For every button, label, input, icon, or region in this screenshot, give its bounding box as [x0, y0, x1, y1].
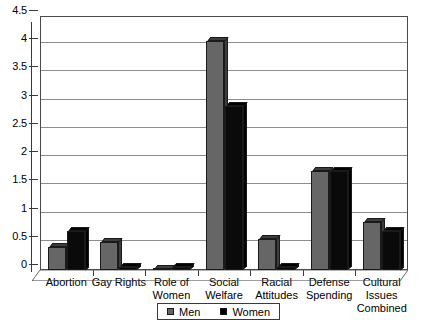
y-axis-tick-label: 4: [21, 32, 27, 44]
legend-label: Women: [232, 306, 270, 318]
bars-layer: [40, 16, 408, 270]
legend-entry-men[interactable]: Men: [167, 306, 200, 318]
bar-face: [67, 231, 85, 271]
bar-face: [311, 171, 329, 270]
bar-men-3: [206, 41, 224, 270]
bar-face: [206, 41, 224, 270]
bar-face: [48, 247, 66, 270]
bar-women-1: [119, 267, 137, 270]
bar-face: [330, 171, 348, 270]
bar-men-5: [311, 171, 329, 270]
bar-men-2: [153, 269, 171, 271]
bar-women-2: [172, 267, 190, 270]
x-axis-category-label: Cultural Issues Combined: [349, 276, 414, 315]
bar-face: [258, 239, 276, 270]
y-axis-tick-label: 2.5: [12, 117, 27, 129]
bar-face: [119, 267, 137, 270]
bar-top: [226, 102, 247, 106]
bar-top: [121, 263, 142, 267]
legend-entry-women[interactable]: Women: [220, 306, 270, 318]
y-axis-tick-mark: [29, 10, 38, 11]
bar-side: [400, 227, 404, 270]
bar-top: [259, 235, 280, 239]
bar-top: [278, 263, 299, 267]
y-axis-tick-label: 0.5: [12, 230, 27, 242]
bar-men-6: [363, 222, 381, 270]
bar-face: [172, 267, 190, 270]
bar-face: [277, 267, 295, 270]
bar-women-6: [382, 231, 400, 271]
bar-men-0: [48, 247, 66, 270]
y-axis-tick-label: 3.5: [12, 60, 27, 72]
bar-face: [225, 106, 243, 270]
bar-men-1: [100, 242, 118, 270]
bar-women-4: [277, 267, 295, 270]
bar-top: [102, 238, 123, 242]
y-axis-tick-label: 4.5: [12, 4, 27, 16]
bar-face: [100, 242, 118, 270]
bar-women-0: [67, 231, 85, 271]
y-axis-tick-label: 0: [21, 258, 27, 270]
bar-side: [85, 227, 89, 270]
bar-top: [173, 263, 194, 267]
bar-men-4: [258, 239, 276, 270]
bar-top: [207, 37, 228, 41]
bar-face: [382, 231, 400, 271]
bar-top: [384, 227, 405, 231]
bar-face: [363, 222, 381, 270]
men-swatch: [167, 308, 174, 315]
y-axis-tick-label: 1: [21, 202, 27, 214]
bar-women-5: [330, 171, 348, 270]
bar-top: [331, 167, 352, 171]
bar-top: [68, 227, 89, 231]
y-axis-tick-label: 1.5: [12, 173, 27, 185]
bar-side: [348, 168, 352, 270]
bar-top: [365, 218, 386, 222]
y-axis-tick-label: 2: [21, 145, 27, 157]
bar-side: [243, 103, 247, 270]
y-axis-tick-label: 3: [21, 89, 27, 101]
bar-chart: 00.511.522.533.544.5 AbortionGay RightsR…: [0, 0, 430, 325]
y-axis-line: [31, 22, 32, 272]
legend-label: Men: [179, 306, 200, 318]
chart-legend: MenWomen: [157, 303, 280, 320]
women-swatch: [220, 308, 227, 315]
bar-women-3: [225, 106, 243, 270]
